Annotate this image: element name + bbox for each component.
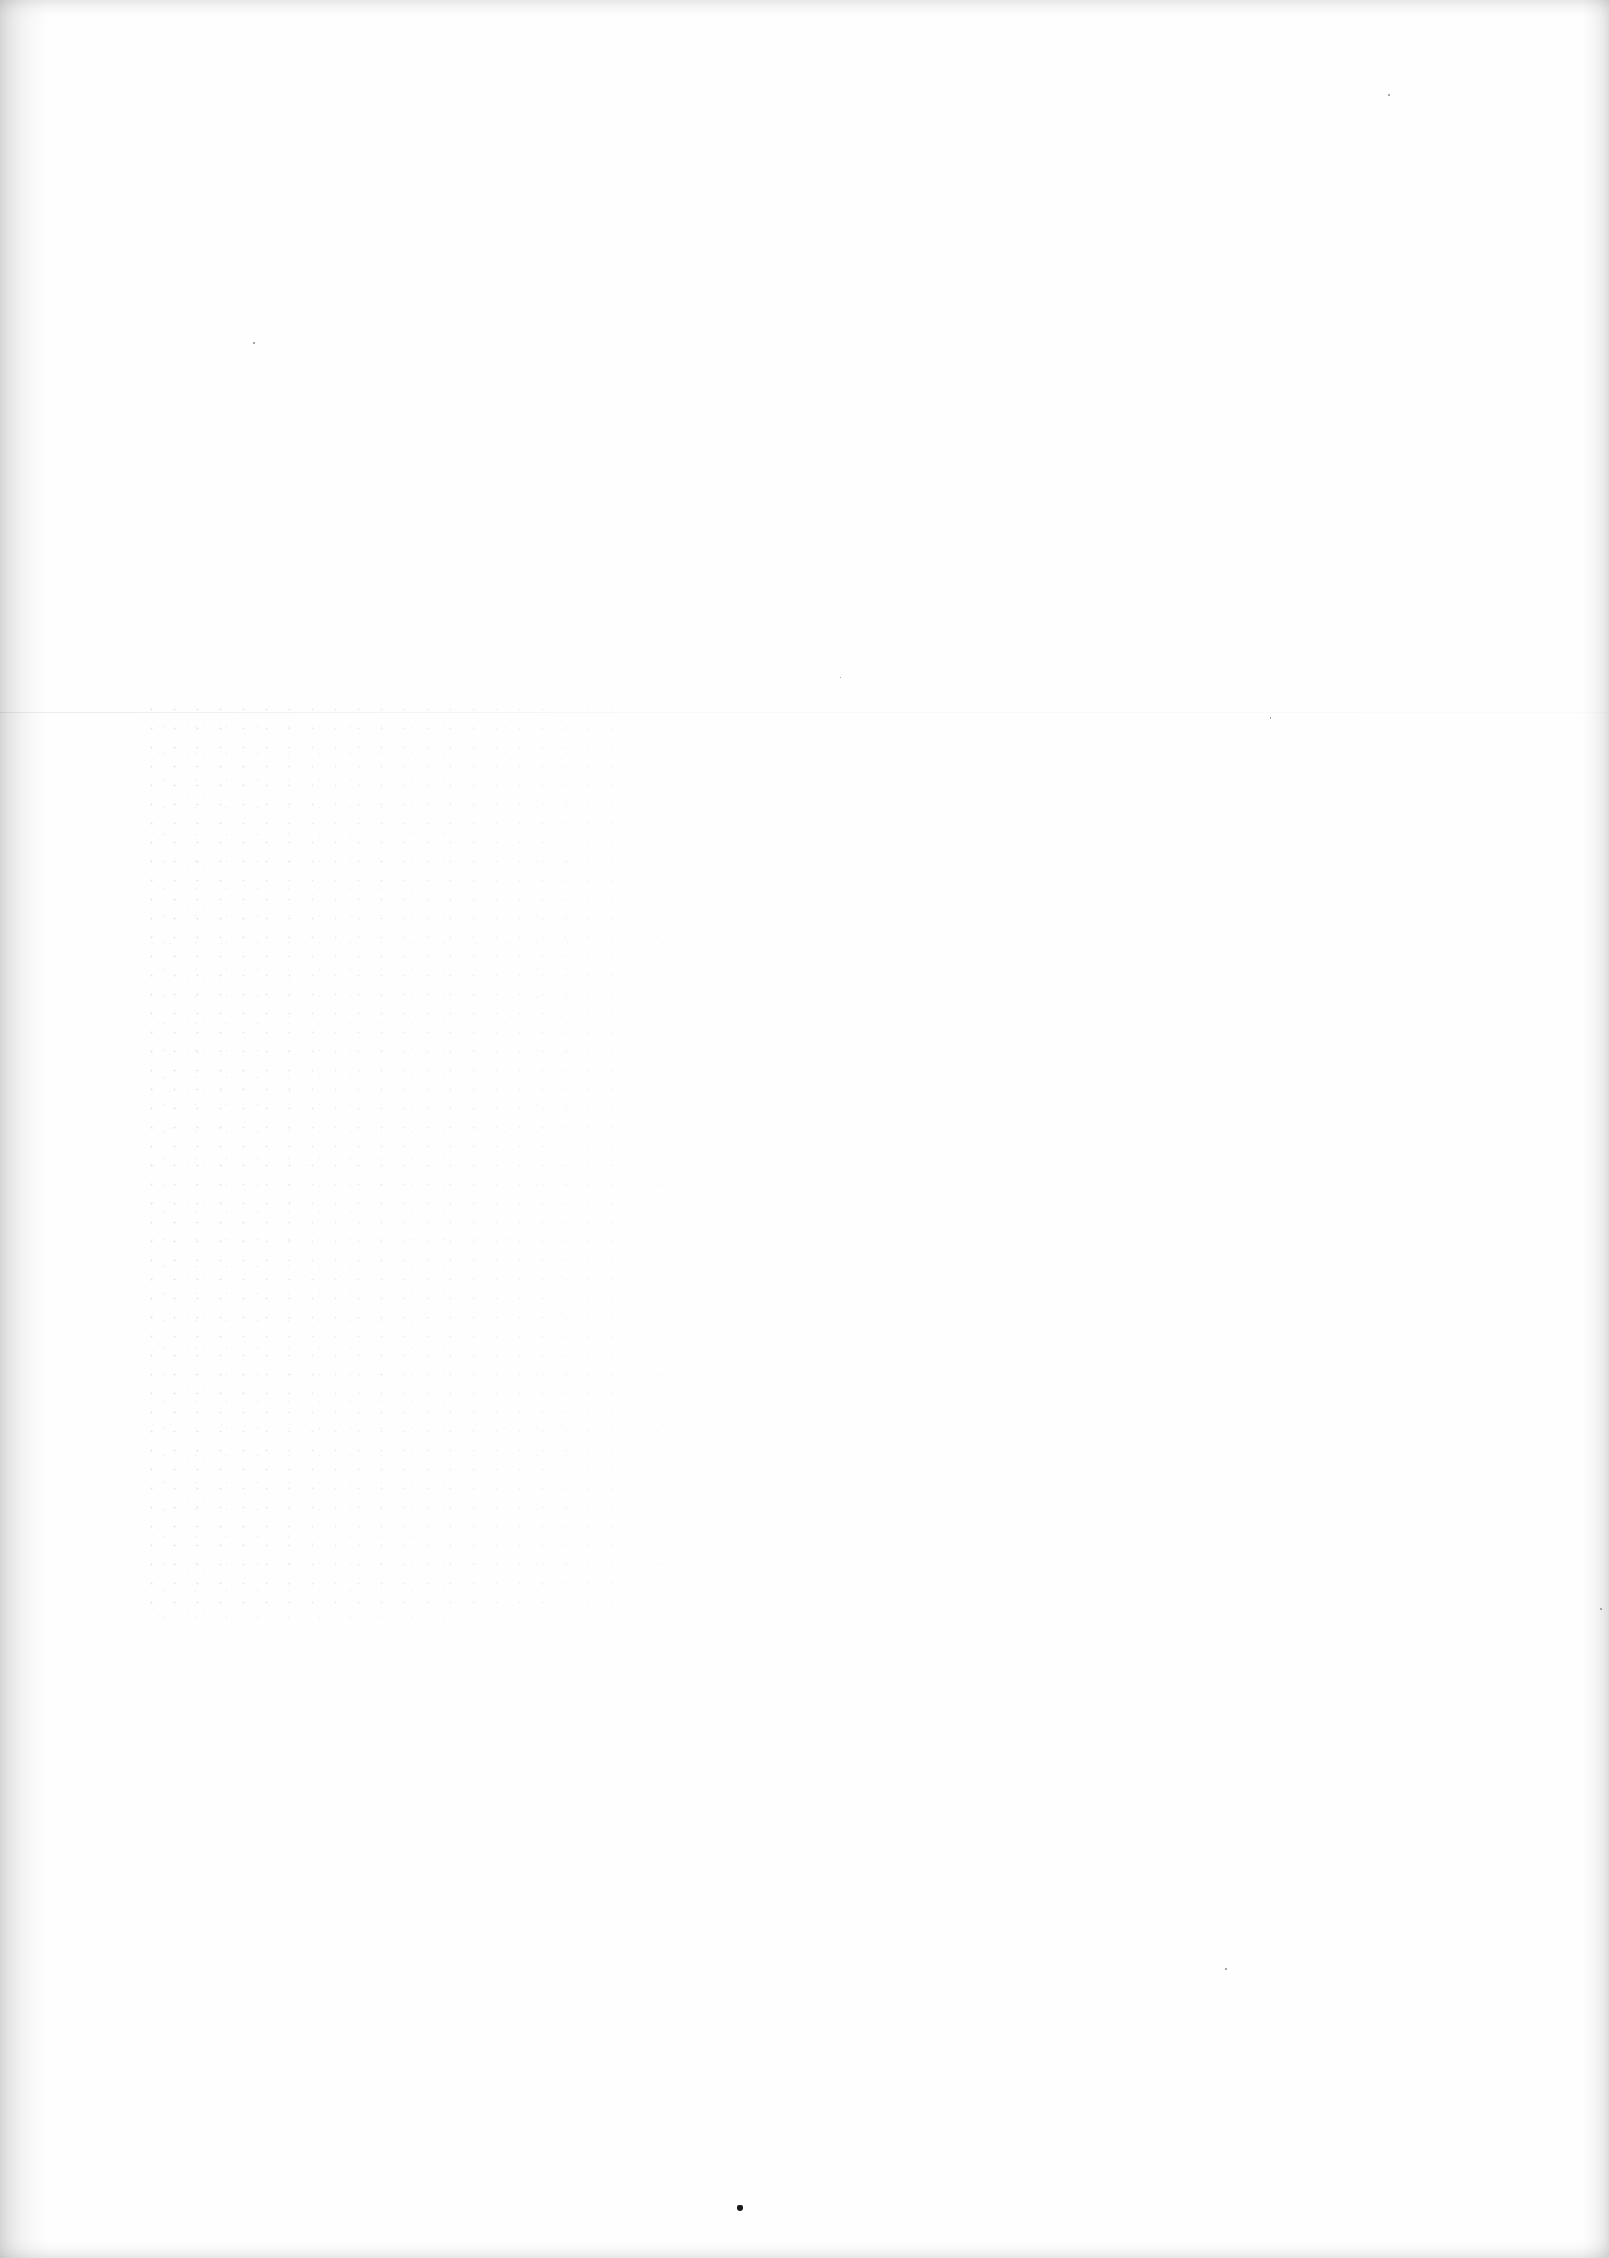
dust-speck [1225,1968,1227,1970]
scan-edge-shadow-left [0,0,48,2258]
dust-speck [1600,1608,1602,1610]
ink-mark [737,2205,743,2211]
dust-speck [253,342,255,344]
blank-document-page [0,0,1609,2258]
scan-edge-shadow-right [1581,0,1609,2258]
dust-speck [840,677,841,678]
bleed-through-speckle [140,700,780,1620]
dust-speck [1388,94,1390,96]
dust-speck [1270,717,1271,719]
